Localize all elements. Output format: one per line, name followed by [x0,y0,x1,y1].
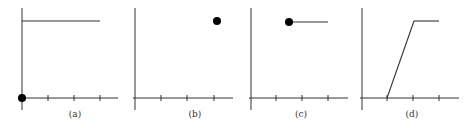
panel-a [18,8,118,110]
point-marker [213,17,221,25]
panel-label-d: (d) [406,109,419,119]
function-segment [387,21,414,98]
panel-label-a: (a) [69,109,81,119]
panel-label-c: (c) [295,109,307,119]
panel-label-b: (b) [189,109,202,119]
panel-c [249,8,348,110]
panel-b [133,8,233,110]
point-marker [285,18,293,26]
panel-d [360,8,459,110]
point-marker [18,94,26,102]
